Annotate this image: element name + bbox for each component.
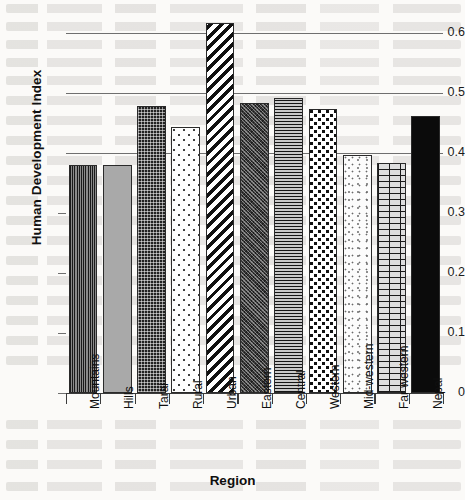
x-axis-label-far-western: Far western (397, 346, 411, 409)
x-axis-label-western: Western (328, 365, 342, 409)
bar-tarai[interactable] (137, 106, 166, 393)
y-axis-title: Human Development Index (29, 38, 44, 278)
x-axis-label-tarai: Tarai (157, 383, 171, 409)
x-axis-label-eastern: Eastern (260, 368, 274, 409)
bar-nepal[interactable] (411, 116, 440, 393)
y-axis-tick (58, 213, 66, 214)
x-axis-label-hills: Hills (122, 386, 136, 409)
x-axis-label-mid-western: Mid-western (362, 344, 376, 409)
bar-eastern[interactable] (240, 103, 269, 393)
x-axis-label-rural: Rural (191, 380, 205, 409)
bar-hills[interactable] (103, 165, 132, 393)
y-axis-tick (58, 393, 66, 394)
x-axis-label-mountains: Mountains (88, 354, 102, 409)
x-axis-label-nepal: Nepal (431, 378, 445, 409)
x-axis-tick (66, 393, 67, 404)
x-axis-label-urban: Urban (225, 376, 239, 409)
x-axis-label-central: Central (294, 370, 308, 409)
y-axis-tick (58, 333, 66, 334)
plot-area (66, 8, 443, 393)
gridline (66, 33, 443, 34)
y-axis-tick (58, 273, 66, 274)
bar-urban[interactable] (206, 23, 235, 393)
bar-chart: Human Development Index 00.10.20.30.40.5… (0, 0, 465, 500)
gridline (66, 93, 443, 94)
bar-western[interactable] (309, 109, 338, 393)
bar-rural[interactable] (171, 127, 200, 393)
x-axis-title: Region (0, 473, 465, 488)
bar-central[interactable] (274, 98, 303, 393)
